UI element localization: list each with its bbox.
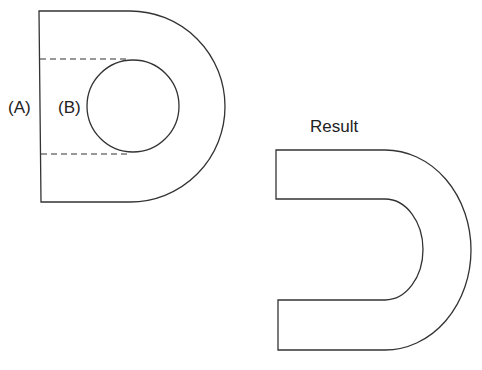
label-result: Result — [310, 118, 358, 135]
label-a: (A) — [8, 99, 31, 116]
diagram-canvas — [0, 0, 482, 370]
result-outline — [276, 150, 471, 350]
label-b: (B) — [58, 99, 81, 116]
shape-b-circle — [87, 60, 179, 152]
